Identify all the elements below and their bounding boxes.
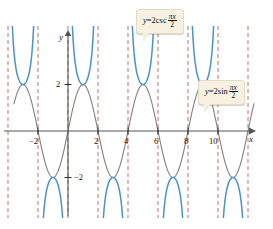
y-tick-label: 2 [56, 79, 60, 89]
cosecant-branch [71, 0, 94, 85]
sin-callout-function: sin [218, 86, 228, 96]
x-axis-label: x [249, 134, 253, 144]
cosecant-branch [222, 178, 244, 229]
x-tick-label: 2 [94, 136, 98, 146]
sin-callout-numerator: πx [229, 84, 238, 92]
plot-canvas [0, 0, 273, 228]
sin-callout-tail [204, 103, 211, 111]
x-tick-label: −2 [29, 136, 38, 146]
csc-callout-function: csc [156, 15, 167, 25]
csc-callout-fraction: πx 2 [168, 13, 177, 30]
csc-callout-denominator: 2 [168, 20, 177, 29]
y-tick-label: −2 [74, 172, 83, 182]
cosecant-equation-callout: y=2csc πx 2 [136, 9, 184, 34]
csc-callout-tail [143, 32, 150, 40]
csc-callout-numerator: πx [168, 13, 177, 21]
x-tick-label: 4 [124, 136, 128, 146]
x-tick-label: 8 [184, 136, 188, 146]
cosecant-branch [191, 0, 214, 85]
sin-callout-denominator: 2 [229, 91, 238, 100]
cosecant-branch [11, 0, 34, 85]
sin-callout-fraction: πx 2 [229, 84, 238, 101]
sine-equation-callout: y=2sin πx 2 [198, 80, 245, 105]
graph-figure: −2246810 2−2 x y y=2csc πx 2 y=2sin πx 2 [0, 0, 273, 228]
x-tick-label: 6 [154, 136, 158, 146]
y-axis-label: y [59, 32, 63, 42]
cosecant-branch [162, 178, 184, 229]
cosecant-branch [42, 178, 64, 229]
x-tick-label: 10 [209, 136, 218, 146]
y-axis-arrowhead [65, 30, 72, 36]
cosecant-branch [102, 178, 124, 229]
